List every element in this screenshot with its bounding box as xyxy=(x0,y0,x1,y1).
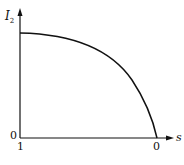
x-tick-left: 1 xyxy=(17,141,24,152)
y-axis-label: I2 xyxy=(5,10,14,25)
origin-label: 0 xyxy=(10,130,17,141)
x-tick-right: 0 xyxy=(153,141,160,152)
x-axis-label: s xyxy=(176,132,182,143)
y-axis-arrow-icon xyxy=(18,8,23,16)
x-axis-arrow-icon xyxy=(166,136,174,141)
diagram: I2 s 0 1 0 xyxy=(0,0,184,165)
current-curve xyxy=(20,33,157,138)
